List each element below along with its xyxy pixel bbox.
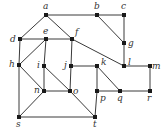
node-o [68,89,72,93]
node-label-i: i [37,60,40,70]
node-label-h: h [9,59,15,69]
edge-f-j [71,39,72,66]
node-label-s: s [16,119,21,129]
node-label-n: n [34,85,40,95]
node-label-f: f [74,27,80,37]
node-f [70,37,74,41]
node-label-l: l [128,57,131,67]
node-h [17,63,21,67]
node-label-g: g [128,38,134,48]
node-label-k: k [101,57,106,67]
graph-diagram: abcdefghijklmnopqrst [0,0,163,135]
edge-f-l [72,39,124,66]
edge-b-g [97,15,124,43]
node-label-j: j [62,60,67,70]
node-p [95,89,99,93]
node-k [95,64,99,68]
edge-j-o [70,66,71,91]
node-g [122,41,126,45]
node-n [42,89,46,93]
edge-n-s [19,91,44,117]
node-d [18,37,22,41]
node-label-c: c [121,1,126,11]
node-label-t: t [93,119,97,129]
node-e [44,37,48,41]
node-label-q: q [117,93,123,103]
node-l [122,64,126,68]
edge-p-t [95,91,97,117]
edge-d-h [19,39,20,65]
node-label-m: m [152,61,161,71]
node-b [95,13,99,17]
edge-a-f [46,15,72,39]
node-label-e: e [43,26,48,36]
edge-e-h [19,39,46,65]
node-j [69,64,73,68]
node-i [42,64,46,68]
node-label-d: d [10,34,16,44]
node-c [122,13,126,17]
node-label-o: o [73,86,79,96]
node-label-b: b [94,1,100,11]
edge-k-q [97,66,120,91]
edge-e-i [44,39,46,66]
node-a [44,13,48,17]
graph-labels: abcdefghijklmnopqrst [9,1,161,129]
edge-h-n [19,65,44,91]
node-label-a: a [43,1,48,11]
node-label-r: r [147,93,152,103]
node-label-p: p [100,93,106,103]
